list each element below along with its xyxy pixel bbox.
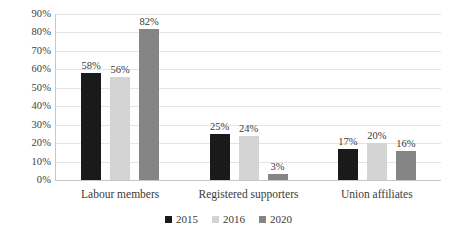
bar-2015-labour-members[interactable] [81, 73, 101, 180]
chart-legend: 201520162020 [0, 213, 457, 225]
bar-2020-labour-members[interactable] [139, 29, 159, 180]
bar-value-label: 82% [140, 16, 159, 27]
legend-item-2016[interactable]: 2016 [212, 213, 245, 225]
bar-value-label: 58% [82, 60, 101, 71]
x-axis-label-labour-members: Labour members [56, 188, 184, 201]
y-axis-tick-label: 60% [3, 64, 51, 75]
y-axis-tick-label: 20% [3, 138, 51, 149]
x-axis-label-registered-supporters: Registered supporters [184, 188, 312, 201]
y-axis-tick-label: 40% [3, 101, 51, 112]
legend-swatch-icon [259, 216, 266, 223]
y-axis-tick-label: 50% [3, 83, 51, 94]
bar-value-label: 56% [111, 64, 130, 75]
bar-2020-union-affiliates[interactable] [396, 151, 416, 181]
legend-label: 2016 [223, 213, 245, 225]
legend-label: 2020 [270, 213, 292, 225]
plot-area: 58%56%82%25%24%3%17%20%16% [56, 14, 441, 180]
bar-2020-registered-supporters[interactable] [268, 174, 288, 180]
x-axis-label-union-affiliates: Union affiliates [313, 188, 441, 201]
bar-slot: 16% [396, 14, 416, 180]
bar-slot: 82% [139, 14, 159, 180]
legend-item-2020[interactable]: 2020 [259, 213, 292, 225]
bar-slot: 25% [210, 14, 230, 180]
legend-swatch-icon [165, 216, 172, 223]
bar-slot: 3% [268, 14, 288, 180]
bar-slot: 56% [110, 14, 130, 180]
bar-value-label: 20% [367, 130, 386, 141]
bar-value-label: 3% [271, 161, 285, 172]
legend-item-2015[interactable]: 2015 [165, 213, 198, 225]
bar-group: 58%56%82% [81, 14, 159, 180]
bar-value-label: 25% [210, 121, 229, 132]
bar-2016-union-affiliates[interactable] [367, 143, 387, 180]
x-axis-category-labels: Labour membersRegistered supportersUnion… [56, 188, 441, 204]
y-axis-tick-label: 30% [3, 120, 51, 131]
y-axis: 0%10%20%30%40%50%60%70%80%90% [0, 0, 51, 237]
bar-2015-registered-supporters[interactable] [210, 134, 230, 180]
bar-value-label: 17% [338, 136, 357, 147]
bar-chart: 0%10%20%30%40%50%60%70%80%90% 58%56%82%2… [0, 0, 457, 237]
gridline [56, 180, 441, 181]
y-axis-tick-label: 0% [3, 175, 51, 186]
bar-2016-labour-members[interactable] [110, 77, 130, 180]
y-axis-tick-label: 70% [3, 46, 51, 57]
y-axis-tick-label: 90% [3, 9, 51, 20]
legend-swatch-icon [212, 216, 219, 223]
bar-2016-registered-supporters[interactable] [239, 136, 259, 180]
bar-slot: 20% [367, 14, 387, 180]
legend-label: 2015 [176, 213, 198, 225]
bar-2015-union-affiliates[interactable] [338, 149, 358, 180]
bar-group: 25%24%3% [210, 14, 288, 180]
bar-value-label: 24% [239, 123, 258, 134]
y-axis-tick-label: 10% [3, 157, 51, 168]
bar-group: 17%20%16% [338, 14, 416, 180]
bar-value-label: 16% [396, 138, 415, 149]
y-axis-tick-label: 80% [3, 27, 51, 38]
bar-slot: 58% [81, 14, 101, 180]
bar-slot: 17% [338, 14, 358, 180]
bar-slot: 24% [239, 14, 259, 180]
